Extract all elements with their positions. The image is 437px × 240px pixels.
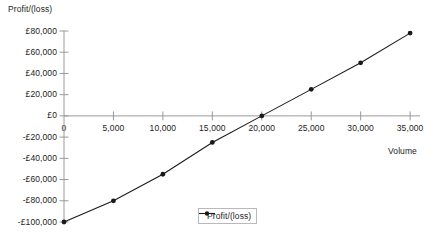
data-point: [111, 198, 116, 203]
chart-legend: Profit/(loss): [198, 208, 257, 224]
data-point: [210, 140, 215, 145]
data-point: [408, 31, 413, 36]
plot-area: [0, 0, 437, 240]
break-even-chart: Profit/(loss) Volume £80,000£60,000£40,0…: [0, 0, 437, 240]
legend-line-marker-icon: [199, 209, 215, 218]
data-point: [160, 172, 165, 177]
series-line-profit-loss: [64, 33, 410, 222]
data-point: [309, 87, 314, 92]
data-point: [62, 220, 67, 225]
data-point: [259, 113, 264, 118]
data-point: [358, 60, 363, 65]
series-markers-profit-loss: [62, 31, 413, 225]
